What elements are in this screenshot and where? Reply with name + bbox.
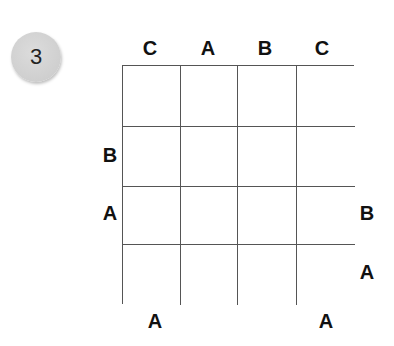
grid-cell-r4c4[interactable] xyxy=(297,245,355,305)
grid-cell-r2c1[interactable] xyxy=(123,127,181,187)
grid-cell-r4c3[interactable] xyxy=(238,245,297,305)
grid-cell-r2c2[interactable] xyxy=(181,127,238,187)
clue-left-3: A xyxy=(100,203,120,223)
grid-cell-r1c2[interactable] xyxy=(181,66,238,127)
grid-cell-r1c1[interactable] xyxy=(123,66,181,127)
grid-cell-r3c1[interactable] xyxy=(123,187,181,245)
clue-top-2: A xyxy=(198,38,218,58)
clue-left-2: B xyxy=(100,145,120,165)
puzzle-number: 3 xyxy=(30,44,42,70)
clue-bottom-4: A xyxy=(316,311,336,331)
clue-top-4: C xyxy=(312,38,332,58)
clue-top-3: B xyxy=(255,38,275,58)
grid-cell-r2c3[interactable] xyxy=(238,127,297,187)
puzzle-grid xyxy=(122,65,354,304)
clue-right-4: A xyxy=(357,262,377,282)
grid-cell-r3c2[interactable] xyxy=(181,187,238,245)
grid-cell-r1c3[interactable] xyxy=(238,66,297,127)
grid-cell-r4c2[interactable] xyxy=(181,245,238,305)
clue-bottom-1: A xyxy=(145,311,165,331)
grid-cell-r4c1[interactable] xyxy=(123,245,181,305)
grid-cell-r2c4[interactable] xyxy=(297,127,355,187)
puzzle-number-badge: 3 xyxy=(11,32,61,82)
grid-cell-r3c4[interactable] xyxy=(297,187,355,245)
grid-cell-r3c3[interactable] xyxy=(238,187,297,245)
clue-right-3: B xyxy=(357,203,377,223)
clue-top-1: C xyxy=(140,38,160,58)
grid-cell-r1c4[interactable] xyxy=(297,66,355,127)
